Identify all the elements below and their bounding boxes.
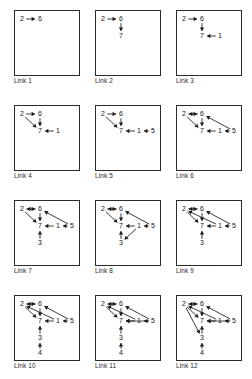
panel-caption: Link 4 (14, 172, 94, 180)
node-label-6: 6 (119, 300, 123, 307)
node-label-7: 7 (119, 222, 123, 229)
panel-link-5: 26715Link 5 (95, 105, 161, 171)
edge-2-to-3 (186, 308, 200, 334)
panel-caption: Link 9 (176, 267, 252, 275)
arrowhead-icon (113, 17, 116, 21)
arrowhead-icon (38, 123, 42, 126)
node-label-2: 2 (20, 110, 24, 117)
edge-6-to-7 (38, 118, 42, 126)
edge-6-to-2 (189, 207, 198, 211)
arrowhead-icon (144, 129, 147, 133)
arrowhead-icon (38, 343, 42, 346)
arrowhead-icon (45, 319, 48, 323)
edge-2-to-6 (107, 17, 116, 21)
panel-link-4: 2671Link 4 (14, 105, 80, 171)
node-label-6: 6 (200, 205, 204, 212)
node-label-2: 2 (182, 15, 186, 22)
graph-canvas: 267153 (14, 200, 80, 266)
edge-6-to-7 (119, 118, 123, 126)
arrowhead-icon (63, 319, 66, 323)
edge-2-to-6 (26, 17, 35, 21)
node-label-7: 7 (119, 127, 123, 134)
node-label-3: 3 (119, 334, 123, 341)
arrowhead-icon (200, 343, 204, 346)
node-label-3: 3 (38, 334, 42, 341)
node-label-2: 2 (20, 15, 24, 22)
arrowhead-icon (63, 224, 66, 228)
node-label-2: 2 (20, 205, 24, 212)
edge-6-to-7 (200, 23, 204, 31)
panel-link-7: 267153Link 7 (14, 200, 80, 266)
node-label-7: 7 (38, 127, 42, 134)
graph-canvas: 26 (14, 10, 80, 76)
node-label-6: 6 (38, 300, 42, 307)
edge-6-to-2 (189, 112, 198, 116)
graph-canvas: 267153 (176, 200, 242, 266)
panel-caption: Link 3 (176, 77, 252, 85)
node-label-1: 1 (218, 222, 222, 229)
edge-1-to-3 (125, 229, 136, 240)
edge-3-to-7 (38, 326, 42, 334)
node-label-6: 6 (200, 110, 204, 117)
arrowhead-icon (119, 231, 123, 234)
panel-caption: Link 8 (95, 267, 175, 275)
edge-6-to-2 (27, 302, 36, 306)
arrowhead-icon (126, 319, 129, 323)
edge-6-to-2 (108, 207, 117, 211)
node-label-5: 5 (232, 127, 236, 134)
arrowhead-icon (119, 123, 123, 126)
edge-1-to-7 (45, 129, 54, 133)
arrowhead-icon (144, 224, 147, 228)
node-label-2: 2 (101, 205, 105, 212)
node-label-1: 1 (218, 32, 222, 39)
node-label-7: 7 (200, 127, 204, 134)
arrowhead-icon (200, 231, 204, 234)
arrowhead-icon (200, 123, 204, 126)
arrowhead-icon (38, 218, 42, 221)
arrowhead-icon (126, 129, 129, 133)
edge-3-to-7 (119, 326, 123, 334)
panel-link-12: 2671534Link 12 (176, 295, 242, 361)
arrowhead-icon (45, 129, 48, 133)
arrowhead-icon (189, 112, 192, 116)
arrowhead-icon (27, 302, 30, 306)
arrowhead-icon (126, 224, 129, 228)
node-label-2: 2 (101, 300, 105, 307)
panel-caption: Link 7 (14, 267, 94, 275)
link-diagram-figure: 26Link 1267Link 22671Link 32671Link 4267… (0, 0, 252, 379)
edge-2-to-6 (107, 112, 116, 116)
panel-link-9: 267153Link 9 (176, 200, 242, 266)
edge-6-to-7 (119, 213, 123, 221)
edge-6-to-7 (200, 118, 204, 126)
panel-link-1: 26Link 1 (14, 10, 80, 76)
arrowhead-icon (119, 343, 123, 346)
node-label-5: 5 (232, 317, 236, 324)
node-label-2: 2 (182, 300, 186, 307)
node-label-7: 7 (38, 222, 42, 229)
edge-1-to-7 (126, 224, 135, 228)
arrowhead-icon (200, 326, 204, 329)
edge-2-to-7 (106, 117, 117, 128)
edge-2-to-7 (25, 212, 36, 223)
edge-1-to-7 (207, 129, 216, 133)
node-label-7: 7 (38, 317, 42, 324)
arrowhead-icon (38, 231, 42, 234)
node-label-1: 1 (137, 222, 141, 229)
arrowhead-icon (194, 17, 197, 21)
node-label-3: 3 (38, 239, 42, 246)
panel-caption: Link 2 (95, 77, 175, 85)
arrowhead-icon (113, 112, 116, 116)
arrowhead-icon (32, 17, 35, 21)
node-label-1: 1 (137, 317, 141, 324)
node-label-1: 1 (56, 317, 60, 324)
arrowhead-icon (45, 224, 48, 228)
node-label-2: 2 (182, 110, 186, 117)
graph-canvas: 2671534 (14, 295, 80, 361)
edge-2-to-6 (188, 17, 197, 21)
graph-canvas: 2671534 (95, 295, 161, 361)
node-label-6: 6 (119, 110, 123, 117)
graph-canvas: 2671 (14, 105, 80, 171)
graph-canvas: 26715 (176, 105, 242, 171)
node-label-7: 7 (119, 32, 123, 39)
arrowhead-icon (207, 319, 210, 323)
